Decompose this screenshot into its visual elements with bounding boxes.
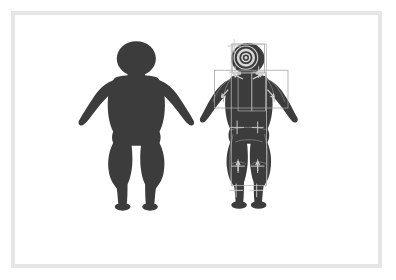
left-foot-right	[142, 203, 158, 211]
left-leg-left	[108, 140, 132, 208]
figure-frame: Plain infant silhouette (unannotated) In…	[11, 11, 382, 268]
right-foot-right	[251, 201, 267, 209]
head-bullseye-target-icon	[234, 46, 257, 69]
figure-canvas: Plain infant silhouette (unannotated) In…	[15, 15, 378, 264]
left-leg-right	[140, 140, 164, 208]
right-foot-left	[231, 201, 247, 209]
panel-left-silhouette	[79, 41, 195, 211]
left-foot-left	[115, 203, 131, 211]
figure-svg	[15, 15, 378, 264]
panel-right-silhouette	[200, 39, 298, 209]
screenshot-root: Plain infant silhouette (unannotated) In…	[0, 0, 396, 280]
left-torso	[108, 75, 165, 134]
